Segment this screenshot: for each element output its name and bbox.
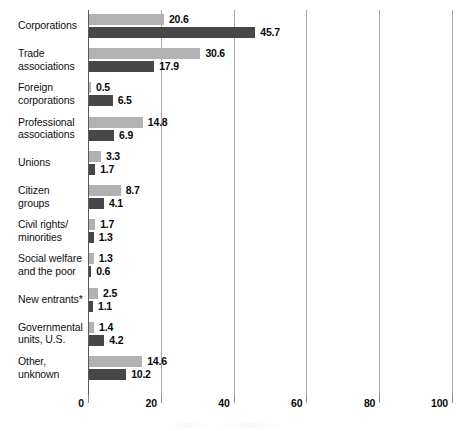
x-tick-mark: [379, 395, 380, 403]
category-label: Governmental units, U.S.: [18, 321, 86, 346]
bar-rect: [89, 356, 142, 367]
bar-series-light: 3.3: [89, 151, 101, 162]
x-tick-label: 0: [54, 397, 84, 409]
bar-series-dark: 17.9: [89, 61, 154, 72]
category-label: Other, unknown: [18, 355, 86, 380]
bar-value-label: 14.6: [147, 355, 167, 368]
bar-rect: [89, 117, 143, 128]
bar-rect: [89, 322, 94, 333]
bar-value-label: 45.7: [260, 26, 280, 39]
gridline-80: [379, 10, 380, 395]
bar-rect: [89, 369, 126, 380]
category-label: Trade associations: [18, 47, 86, 72]
x-tick-mark: [452, 395, 453, 403]
page-edge-artifact: [168, 423, 318, 428]
category-label: Social welfare and the poor: [18, 252, 86, 277]
bar-value-label: 14.8: [148, 116, 168, 129]
bar-value-label: 8.7: [126, 184, 140, 197]
x-tick-label: 80: [345, 397, 375, 409]
bar-series-dark: 0.6: [89, 266, 91, 277]
bar-series-light: 2.5: [89, 288, 98, 299]
bar-series-light: 1.4: [89, 322, 94, 333]
category-label: Citizen groups: [18, 184, 86, 209]
bar-series-light: 14.6: [89, 356, 142, 367]
bar-series-dark: 4.1: [89, 198, 104, 209]
bar-rect: [89, 61, 154, 72]
bar-value-label: 30.6: [205, 47, 225, 60]
bar-series-dark: 6.5: [89, 95, 113, 106]
category-label: New entrants*: [18, 293, 86, 306]
bar-value-label: 4.2: [109, 334, 123, 347]
bar-value-label: 20.6: [169, 13, 189, 26]
bar-series-light: 14.8: [89, 117, 143, 128]
x-tick-label: 100: [418, 397, 448, 409]
bar-value-label: 0.6: [96, 265, 110, 278]
bar-rect: [89, 130, 114, 141]
category-label: Foreign corporations: [18, 81, 86, 106]
bar-rect: [89, 185, 121, 196]
horizontal-bar-chart: Corporations20.645.7Trade associations30…: [0, 0, 466, 431]
category-label: Civil rights/ minorities: [18, 218, 86, 243]
x-tick-mark: [306, 395, 307, 403]
bar-rect: [89, 232, 94, 243]
bar-rect: [89, 82, 91, 93]
x-tick-mark: [234, 395, 235, 403]
x-tick-mark: [88, 395, 89, 403]
bar-value-label: 1.7: [100, 163, 114, 176]
bar-series-dark: 1.3: [89, 232, 94, 243]
category-label: Unions: [18, 156, 86, 169]
bar-value-label: 2.5: [103, 287, 117, 300]
bar-series-dark: 6.9: [89, 130, 114, 141]
bar-series-dark: 45.7: [89, 27, 255, 38]
x-tick-label: 60: [272, 397, 302, 409]
bar-value-label: 6.5: [118, 94, 132, 107]
gridline-60: [306, 10, 307, 395]
bar-series-light: 30.6: [89, 48, 200, 59]
x-tick-label: 20: [127, 397, 157, 409]
bar-rect: [89, 14, 164, 25]
x-tick-label: 40: [200, 397, 230, 409]
bar-series-dark: 1.7: [89, 164, 95, 175]
gridline-100: [452, 10, 453, 395]
category-label: Professional associations: [18, 116, 86, 141]
bar-rect: [89, 95, 113, 106]
bar-series-light: 0.5: [89, 82, 91, 93]
bar-value-label: 10.2: [131, 368, 151, 381]
bar-series-light: 1.7: [89, 219, 95, 230]
bar-series-light: 8.7: [89, 185, 121, 196]
bar-rect: [89, 164, 95, 175]
bar-rect: [89, 27, 255, 38]
bar-rect: [89, 335, 104, 346]
bar-series-light: 20.6: [89, 14, 164, 25]
x-tick-mark: [161, 395, 162, 403]
bar-series-light: 1.3: [89, 253, 94, 264]
bar-value-label: 1.1: [98, 300, 112, 313]
gridline-40: [234, 10, 235, 395]
bar-value-label: 6.9: [119, 129, 133, 142]
bar-rect: [89, 288, 98, 299]
bar-value-label: 4.1: [109, 197, 123, 210]
bar-rect: [89, 266, 91, 277]
bar-series-dark: 4.2: [89, 335, 104, 346]
bar-rect: [89, 198, 104, 209]
bar-rect: [89, 253, 94, 264]
bar-value-label: 0.5: [96, 81, 110, 94]
bar-series-dark: 1.1: [89, 301, 93, 312]
category-label: Corporations: [18, 19, 86, 32]
bar-rect: [89, 219, 95, 230]
bar-value-label: 3.3: [106, 150, 120, 163]
bar-rect: [89, 151, 101, 162]
bar-rect: [89, 301, 93, 312]
bar-value-label: 1.7: [100, 218, 114, 231]
bar-rect: [89, 48, 200, 59]
bar-value-label: 1.3: [99, 252, 113, 265]
bar-value-label: 1.3: [99, 231, 113, 244]
bar-value-label: 1.4: [99, 321, 113, 334]
bar-series-dark: 10.2: [89, 369, 126, 380]
bar-value-label: 17.9: [159, 60, 179, 73]
